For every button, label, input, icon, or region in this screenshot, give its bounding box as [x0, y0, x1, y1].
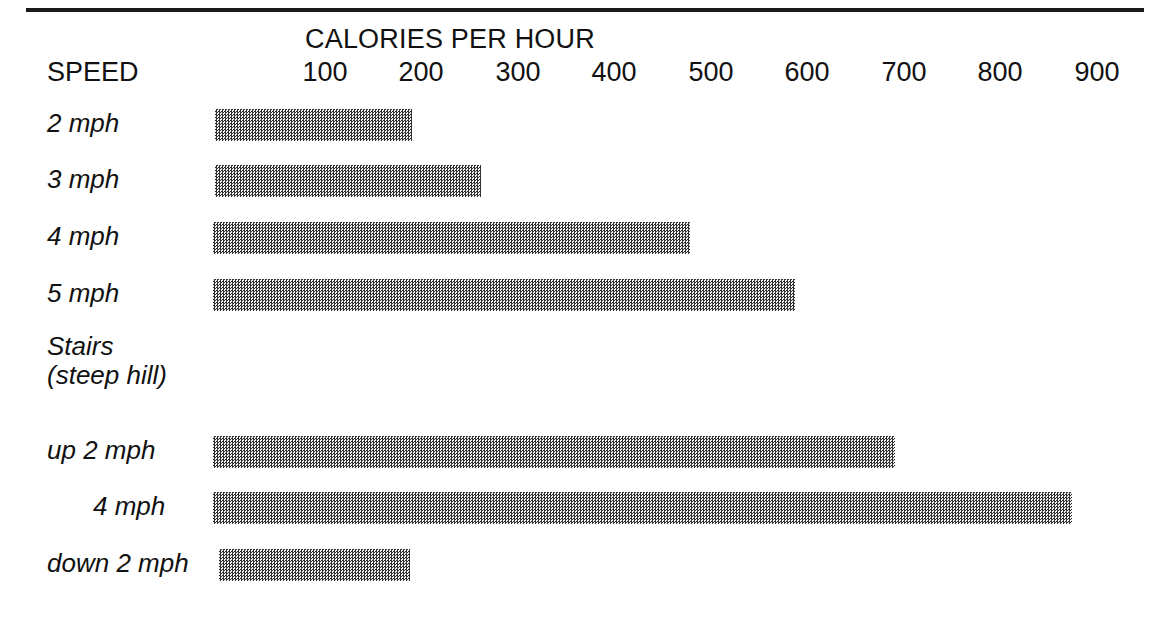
bar-row: 2 mph — [0, 108, 1168, 142]
bar-row-label: down 2 mph — [47, 548, 189, 578]
bar — [213, 222, 690, 254]
bar-row-label-line1: Stairs — [47, 332, 167, 361]
bar-row-label-line1: 3 mph — [47, 164, 119, 194]
chart-sheet: CALORIES PER HOUR SPEED 1002003004005006… — [0, 0, 1168, 629]
bar-row-label-line1: 2 mph — [47, 108, 119, 138]
bar-row: 5 mph — [0, 278, 1168, 312]
bar-row-label: 4 mph — [93, 491, 165, 521]
bar-rows-container: 2 mph3 mph4 mph5 mphStairs(steep hill)up… — [0, 0, 1168, 629]
bar-row-label-line2: (steep hill) — [47, 361, 167, 390]
bar-row-label-line1: 4 mph — [93, 491, 165, 521]
bar-row-label: 2 mph — [47, 108, 119, 138]
bar-row: 3 mph — [0, 164, 1168, 198]
bar-row-label-line1: down 2 mph — [47, 548, 189, 578]
bar — [213, 436, 895, 468]
bar — [213, 279, 795, 311]
bar-row: up 2 mph — [0, 435, 1168, 469]
bar — [219, 549, 410, 581]
bar — [215, 165, 481, 197]
bar-row: Stairs(steep hill) — [0, 336, 1168, 370]
bar-row: 4 mph — [0, 491, 1168, 525]
bar-row-label-line1: 5 mph — [47, 278, 119, 308]
bar-row-label: 4 mph — [47, 221, 119, 251]
bar-row-label-line1: up 2 mph — [47, 435, 155, 465]
bar-row: 4 mph — [0, 221, 1168, 255]
bar-row: down 2 mph — [0, 548, 1168, 582]
bar-row-label: up 2 mph — [47, 435, 155, 465]
bar-row-label-line1: 4 mph — [47, 221, 119, 251]
bar — [215, 109, 412, 141]
bar-row-label: 5 mph — [47, 278, 119, 308]
bar-row-label: Stairs(steep hill) — [47, 332, 167, 390]
bar-row-label: 3 mph — [47, 164, 119, 194]
bar — [213, 492, 1072, 524]
